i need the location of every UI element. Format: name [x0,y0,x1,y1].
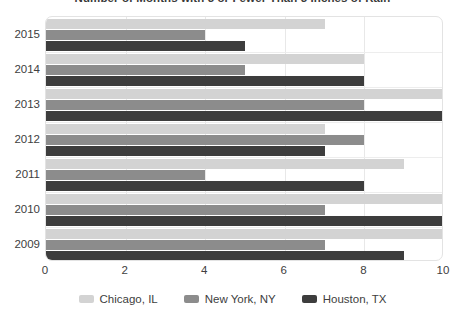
chart-container: Number of Months with 3 or Fewer Than 3 … [0,0,465,325]
x-axis-label-4: 4 [189,264,219,276]
bar-houston-2013 [46,111,443,121]
y-axis-label-2009: 2009 [0,238,40,250]
bar-new-york-2011 [46,170,205,180]
y-axis-label-2013: 2013 [0,98,40,110]
y-axis-label-2011: 2011 [0,168,40,180]
y-axis-label-2012: 2012 [0,133,40,145]
legend-label-chicago: Chicago, IL [100,293,158,305]
bar-group-2014 [46,52,442,87]
legend-item-houston[interactable]: Houston, TX [302,293,387,305]
legend-label-houston: Houston, TX [323,293,387,305]
x-axis-label-8: 8 [348,264,378,276]
bar-group-2013 [46,87,442,122]
bar-group-2010 [46,192,442,227]
legend-item-new-york[interactable]: New York, NY [184,293,276,305]
legend-swatch-new-york [184,295,199,303]
y-axis-label-2010: 2010 [0,203,40,215]
legend-swatch-chicago [79,295,94,303]
bar-chicago-2011 [46,159,404,169]
y-axis-label-2015: 2015 [0,28,40,40]
bar-new-york-2010 [46,205,325,215]
bar-new-york-2015 [46,30,205,40]
bar-houston-2011 [46,181,364,191]
bar-new-york-2009 [46,240,325,250]
bar-chicago-2009 [46,229,443,239]
legend-label-new-york: New York, NY [205,293,276,305]
bar-chicago-2010 [46,194,443,204]
x-axis: 0246810 [0,264,465,282]
bar-new-york-2014 [46,65,245,75]
x-axis-label-6: 6 [269,264,299,276]
bar-new-york-2012 [46,135,364,145]
x-axis-label-10: 10 [428,264,458,276]
bar-houston-2009 [46,251,404,261]
bar-new-york-2013 [46,100,364,110]
bar-group-2009 [46,227,442,261]
bar-group-2012 [46,122,442,157]
chart-legend: Chicago, ILNew York, NYHouston, TX [0,293,465,305]
bar-group-2015 [46,17,442,52]
legend-swatch-houston [302,295,317,303]
bar-houston-2012 [46,146,325,156]
plot-area [45,16,443,261]
bar-chicago-2013 [46,89,443,99]
legend-item-chicago[interactable]: Chicago, IL [79,293,158,305]
bar-chicago-2012 [46,124,325,134]
bar-houston-2015 [46,41,245,51]
x-axis-label-2: 2 [110,264,140,276]
y-axis: 2015201420132012201120102009 [0,16,40,261]
bar-houston-2014 [46,76,364,86]
bar-group-2011 [46,157,442,192]
bar-houston-2010 [46,216,443,226]
chart-title: Number of Months with 3 or Fewer Than 3 … [0,0,465,4]
x-axis-label-0: 0 [30,264,60,276]
bar-chicago-2014 [46,54,364,64]
bar-chicago-2015 [46,19,325,29]
y-axis-label-2014: 2014 [0,63,40,75]
